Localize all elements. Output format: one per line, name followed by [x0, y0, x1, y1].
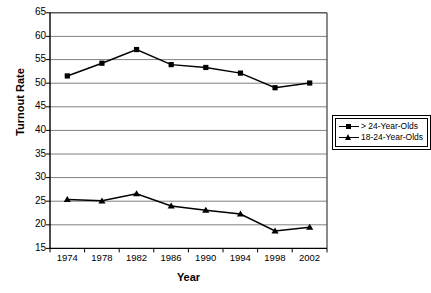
data-point — [272, 85, 277, 90]
series-line-18-24 — [67, 194, 309, 231]
legend-item-18-24: 18-24-Year-Olds — [339, 132, 423, 143]
data-point — [307, 80, 312, 85]
x-axis-title: Year — [50, 271, 327, 283]
data-point — [238, 71, 243, 76]
legend-item-over-24: > 24-Year-Olds — [339, 121, 423, 132]
series-markers-over-24 — [65, 47, 313, 90]
data-point — [169, 62, 174, 67]
square-marker-icon — [339, 122, 359, 132]
series-over-24 — [65, 47, 313, 90]
legend-label: 18-24-Year-Olds — [361, 132, 423, 143]
data-point — [134, 47, 139, 52]
data-point — [99, 61, 104, 66]
series-18-24 — [64, 190, 314, 233]
series-markers-18-24 — [64, 190, 314, 233]
series-line-over-24 — [67, 50, 309, 88]
data-point — [203, 65, 208, 70]
triangle-marker-icon — [339, 133, 359, 143]
gridlines — [50, 36, 327, 224]
data-point — [133, 190, 140, 196]
chart-legend: > 24-Year-Olds 18-24-Year-Olds — [332, 115, 431, 150]
legend-label: > 24-Year-Olds — [361, 121, 418, 132]
data-point — [65, 73, 70, 78]
x-tick-label: 2002 — [290, 252, 330, 263]
